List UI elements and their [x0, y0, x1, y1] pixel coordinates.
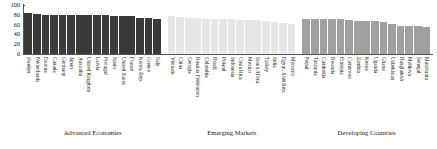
category-label-slot: Senegal [413, 56, 422, 124]
bar[interactable] [42, 15, 50, 54]
bar[interactable] [354, 21, 362, 54]
bar-slot[interactable] [118, 5, 127, 54]
bar-slot[interactable] [371, 5, 380, 54]
bar[interactable] [271, 22, 279, 54]
bar-slot[interactable] [176, 5, 185, 54]
bar-slot[interactable] [127, 5, 136, 54]
bar[interactable] [253, 20, 261, 54]
bar[interactable] [185, 18, 193, 54]
bar-slot[interactable] [279, 5, 288, 54]
category-label-slot: Vietnam [167, 56, 176, 124]
bar[interactable] [193, 18, 201, 54]
bar-slot[interactable] [167, 5, 176, 54]
bar[interactable] [136, 18, 144, 54]
bar-slot[interactable] [144, 5, 153, 54]
bar[interactable] [168, 16, 176, 54]
bar-slot[interactable] [50, 5, 59, 54]
bar[interactable] [84, 15, 92, 54]
bar-slot[interactable] [302, 5, 311, 54]
bar-slot[interactable] [253, 5, 262, 54]
bar[interactable] [245, 20, 253, 54]
bar-slot[interactable] [84, 5, 93, 54]
bar-slot[interactable] [153, 5, 162, 54]
x-axis-line [23, 54, 433, 55]
bar[interactable] [337, 19, 345, 54]
bar[interactable] [302, 19, 310, 54]
bar-slot[interactable] [24, 5, 33, 54]
bar[interactable] [288, 24, 296, 54]
bar[interactable] [362, 21, 370, 54]
category-label: Uganda [372, 57, 377, 73]
bar[interactable] [211, 19, 219, 54]
bar-slot[interactable] [362, 5, 371, 54]
bar-slot[interactable] [101, 5, 110, 54]
bar[interactable] [371, 21, 379, 54]
bar[interactable] [228, 19, 236, 54]
bar[interactable] [405, 26, 413, 54]
bar[interactable] [380, 22, 388, 54]
bar-slot[interactable] [184, 5, 193, 54]
bar[interactable] [176, 17, 184, 54]
bar[interactable] [50, 15, 58, 54]
bar[interactable] [414, 26, 422, 54]
bar-slot[interactable] [210, 5, 219, 54]
bar[interactable] [219, 19, 227, 54]
bar[interactable] [110, 16, 118, 54]
bar[interactable] [262, 21, 270, 54]
category-label-slot: Tanzania [311, 56, 320, 124]
bar-slot[interactable] [353, 5, 362, 54]
bar[interactable] [127, 16, 135, 54]
bar[interactable] [320, 19, 328, 54]
bar[interactable] [388, 24, 396, 54]
bar-slot[interactable] [58, 5, 67, 54]
category-label-slot: Cambodia [319, 56, 328, 124]
bar-slot[interactable] [413, 5, 422, 54]
category-label: Turkey [263, 57, 268, 72]
bar-slot[interactable] [136, 5, 145, 54]
bar[interactable] [328, 19, 336, 54]
bar-slot[interactable] [67, 5, 76, 54]
category-label: Russian Federation [195, 57, 200, 97]
bar-slot[interactable] [319, 5, 328, 54]
bar-slot[interactable] [287, 5, 296, 54]
bar-slot[interactable] [93, 5, 102, 54]
bar-slot[interactable] [41, 5, 50, 54]
bar-slot[interactable] [33, 5, 42, 54]
bar[interactable] [279, 23, 287, 54]
bar[interactable] [67, 15, 75, 54]
bar[interactable] [93, 15, 101, 54]
bar[interactable] [236, 20, 244, 54]
bar-slot[interactable] [311, 5, 320, 54]
bar[interactable] [153, 19, 161, 54]
bar-slot[interactable] [396, 5, 405, 54]
bar-slot[interactable] [379, 5, 388, 54]
bar[interactable] [311, 19, 319, 54]
bar[interactable] [119, 16, 127, 54]
bar-slot[interactable] [345, 5, 354, 54]
bar[interactable] [345, 20, 353, 54]
bar-slot[interactable] [262, 5, 271, 54]
bar[interactable] [76, 15, 84, 54]
bar-slot[interactable] [227, 5, 236, 54]
bar[interactable] [422, 27, 430, 54]
bar-slot[interactable] [328, 5, 337, 54]
bar-slot[interactable] [270, 5, 279, 54]
bar[interactable] [202, 19, 210, 54]
bar-slot[interactable] [75, 5, 84, 54]
bar-slot[interactable] [219, 5, 228, 54]
bar-slot[interactable] [236, 5, 245, 54]
bar-slot[interactable] [193, 5, 202, 54]
bar-slot[interactable] [388, 5, 397, 54]
bar[interactable] [59, 15, 67, 54]
bar[interactable] [102, 15, 110, 54]
bar[interactable] [24, 13, 32, 54]
bar[interactable] [33, 14, 41, 54]
bar-slot[interactable] [110, 5, 119, 54]
bar-slot[interactable] [405, 5, 414, 54]
bar-slot[interactable] [202, 5, 211, 54]
bar-slot[interactable] [422, 5, 431, 54]
bar[interactable] [397, 26, 405, 54]
bar-slot[interactable] [244, 5, 253, 54]
bar[interactable] [145, 18, 153, 54]
bar-slot[interactable] [336, 5, 345, 54]
